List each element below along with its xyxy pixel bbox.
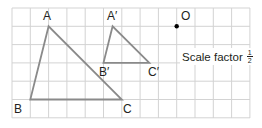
vertex-label-c: C — [123, 103, 132, 115]
vertex-label-b: B — [14, 103, 22, 115]
scale-factor-fraction: 1 2 — [247, 49, 253, 64]
vertex-label-c-prime: C′ — [148, 66, 159, 78]
vertex-label-a: A — [43, 10, 51, 22]
vertex-label-b-prime: B′ — [99, 66, 109, 78]
fraction-denominator: 2 — [248, 57, 252, 64]
centre-point-o — [175, 24, 179, 28]
scale-factor-text: Scale factor — [182, 51, 243, 63]
vertex-label-a-prime: A′ — [107, 10, 117, 22]
scale-factor-annotation: Scale factor 1 2 — [180, 48, 255, 65]
centre-label-o: O — [181, 10, 190, 22]
fraction-numerator: 1 — [248, 49, 252, 56]
